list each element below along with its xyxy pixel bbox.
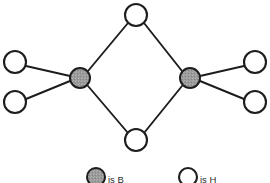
bond-left-boron-to-bottom-hydrogen xyxy=(88,86,128,133)
bond-left-boron-to-lower-left-hydrogen xyxy=(26,81,70,99)
molecule-diagram: is B is H xyxy=(0,0,270,183)
atom-hydrogen-lower-left xyxy=(4,91,26,113)
atom-hydrogen-upper-right xyxy=(244,51,266,73)
legend: is B is H xyxy=(87,168,217,183)
atom-boron-right xyxy=(180,68,200,88)
atom-hydrogen-bottom-bridge xyxy=(125,129,147,151)
legend-hydrogen-swatch-icon xyxy=(179,168,197,183)
atom-hydrogen-top-bridge xyxy=(125,4,147,26)
bond-right-boron-to-lower-right-hydrogen xyxy=(200,81,244,99)
legend-boron-label: is B xyxy=(108,174,124,183)
legend-boron-swatch-icon xyxy=(87,168,105,183)
legend-hydrogen-label: is H xyxy=(200,174,217,183)
atom-boron-left xyxy=(70,68,90,88)
bond-right-boron-to-bottom-hydrogen xyxy=(144,86,182,133)
boron-group xyxy=(70,68,200,88)
bond-group xyxy=(26,23,244,133)
atom-hydrogen-upper-left xyxy=(4,51,26,73)
atom-hydrogen-lower-right xyxy=(244,91,266,113)
bond-left-boron-to-upper-left-hydrogen xyxy=(26,66,70,76)
bridging-hydrogen-group xyxy=(125,4,147,151)
molecule-canvas: is B is H xyxy=(0,0,270,183)
terminal-hydrogen-group xyxy=(4,51,266,113)
bond-right-boron-to-top-hydrogen xyxy=(144,23,182,71)
bond-right-boron-to-upper-right-hydrogen xyxy=(200,66,244,76)
bond-left-boron-to-top-hydrogen xyxy=(88,23,128,71)
